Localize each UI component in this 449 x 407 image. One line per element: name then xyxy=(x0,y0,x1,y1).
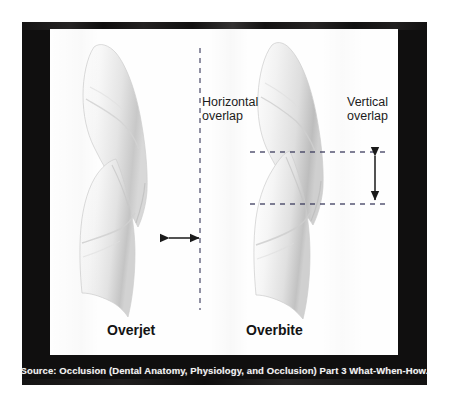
overjet-illustration xyxy=(80,45,200,317)
figure-page: Horizontal overlap Vertical overlap Over… xyxy=(0,0,449,407)
teeth-diagram-svg xyxy=(50,29,398,355)
overjet-title: Overjet xyxy=(107,322,155,338)
vertical-overlap-label: Vertical overlap xyxy=(347,95,388,123)
image-frame: Horizontal overlap Vertical overlap Over… xyxy=(22,22,427,385)
source-caption-text: Source: Occlusion (Dental Anatomy, Physi… xyxy=(21,365,429,376)
illustration-panel: Horizontal overlap Vertical overlap Over… xyxy=(50,29,398,355)
source-caption-bar: Source: Occlusion (Dental Anatomy, Physi… xyxy=(22,355,427,385)
overbite-illustration xyxy=(254,43,323,319)
overbite-title: Overbite xyxy=(246,322,303,338)
horizontal-overlap-label: Horizontal overlap xyxy=(202,95,258,123)
